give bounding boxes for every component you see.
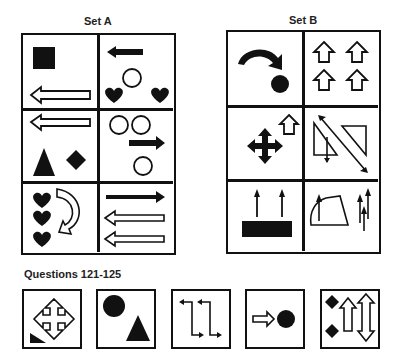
filled-left-arrow-icon [107, 46, 143, 58]
filled-right-arrow-icon [129, 136, 165, 150]
heart-icon [105, 88, 123, 103]
set-b-panel-2 [304, 32, 378, 105]
hollow-curved-arrow-icon [57, 189, 79, 234]
hollow-left-arrow-icon [31, 87, 90, 103]
hollow-left-arrow-icon [105, 232, 164, 246]
hollow-circle-icon [132, 116, 150, 134]
heart-icon [33, 211, 51, 226]
set-a-panel-3 [23, 110, 97, 181]
down-arrow-icon [324, 158, 330, 163]
set-a-title: Set A [84, 15, 112, 27]
heart-icon [33, 193, 51, 208]
set-b-panel-1 [228, 32, 302, 105]
hollow-triangle-icon [342, 126, 366, 155]
zigzag-arrow-icon [183, 302, 200, 335]
hollow-left-arrow-icon [105, 211, 164, 225]
hollow-left-arrow-icon [31, 115, 90, 130]
filled-circle-icon [103, 295, 125, 317]
filled-triangle-icon [126, 315, 150, 341]
filled-circle-icon [271, 75, 289, 93]
up-arrow-icon [361, 206, 367, 214]
hollow-circle-icon [123, 69, 141, 87]
hollow-circle-icon [134, 157, 152, 175]
question-125[interactable] [320, 289, 380, 349]
question-124[interactable] [245, 289, 305, 349]
heart-icon [33, 232, 51, 247]
filled-four-way-arrow-icon [247, 128, 283, 164]
hollow-four-way-arrow-icon [34, 299, 74, 339]
hollow-up-arrow-icon [280, 115, 298, 134]
heart-icon [151, 88, 169, 103]
set-a-panel-6 [99, 183, 173, 252]
filled-curved-arrow-icon [238, 49, 282, 70]
filled-circle-icon [277, 310, 295, 328]
filled-diamond-icon [66, 150, 86, 170]
filled-triangle-icon [30, 333, 46, 343]
hollow-double-vertical-arrow-icon [358, 294, 374, 341]
hollow-up-arrow-icon [347, 70, 367, 90]
zigzag-arrow-icon [201, 302, 218, 335]
set-b-panel-4 [304, 107, 378, 179]
questions-title: Questions 121-125 [24, 268, 121, 280]
filled-square-icon [33, 47, 55, 69]
question-121[interactable] [22, 289, 82, 349]
hollow-quadrilateral-icon [311, 196, 348, 225]
hollow-right-arrow-icon [253, 312, 274, 326]
filled-rectangle-icon [242, 221, 292, 237]
up-arrow-icon [279, 189, 285, 197]
set-b-panel-5 [228, 181, 302, 251]
set-a-panel-1 [23, 35, 97, 108]
filled-right-arrow-icon [106, 191, 165, 203]
up-arrow-icon [316, 194, 322, 202]
set-b-panel-3 [228, 107, 302, 179]
filled-diamond-icon [325, 295, 339, 309]
set-a-panel-4 [99, 110, 173, 181]
up-arrow-icon [254, 189, 260, 197]
set-a-grid [21, 33, 176, 255]
set-b-grid [226, 30, 381, 254]
hollow-up-arrow-icon [347, 42, 367, 62]
set-a-panel-2 [99, 35, 173, 108]
hollow-circle-icon [110, 116, 128, 134]
filled-triangle-icon [33, 148, 55, 176]
hollow-up-arrow-icon [340, 298, 356, 331]
hollow-triangle-icon [314, 123, 337, 155]
question-123[interactable] [171, 289, 231, 349]
filled-diamond-icon [325, 324, 339, 338]
question-122[interactable] [96, 289, 156, 349]
hollow-up-arrow-icon [314, 70, 334, 90]
set-b-title: Set B [289, 14, 317, 26]
set-a-panel-5 [23, 183, 97, 252]
hollow-up-arrow-icon [314, 42, 334, 62]
set-b-panel-6 [304, 181, 378, 251]
up-arrow-icon [357, 194, 363, 202]
up-arrow-icon [365, 188, 371, 196]
